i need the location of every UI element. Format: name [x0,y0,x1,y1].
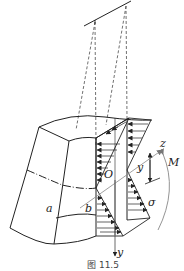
label-y-distance: y [136,161,144,174]
figure-caption: 图 11.5 [87,260,119,270]
label-z: z [159,137,166,150]
tension-arrows [97,180,147,232]
label-y: y [116,246,124,259]
label-sigma: σ [148,196,156,209]
label-M: M [167,156,180,169]
label-b: b [85,202,92,215]
projection-line [84,1,131,26]
label-a: a [46,202,53,215]
beam-bending-diagram: z M O y σ a b y 图 11.5 [0,0,184,271]
label-O: O [104,168,113,181]
y-distance-dimension [145,153,160,184]
